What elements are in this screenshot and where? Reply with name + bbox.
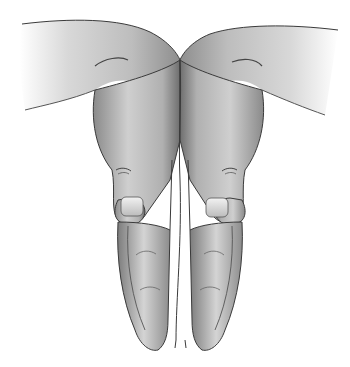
left-thumbnail — [121, 197, 143, 216]
right-thumbnail — [206, 198, 228, 217]
illustration-canvas — [0, 0, 350, 367]
fingertips — [175, 340, 186, 348]
left-hand — [93, 60, 180, 225]
hands-illustration — [0, 0, 350, 367]
right-hand — [180, 60, 264, 225]
